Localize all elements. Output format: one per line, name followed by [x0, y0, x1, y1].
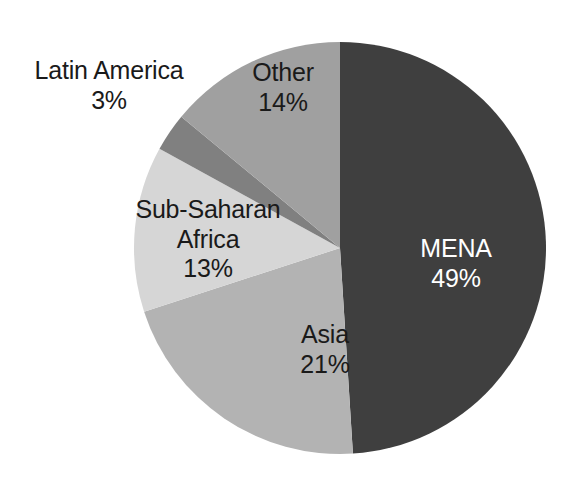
slice-label-asia: Asia 21%	[271, 320, 379, 379]
slice-label-sub-saharan-africa-value: 13%	[120, 254, 296, 284]
slice-label-asia-name: Asia	[271, 320, 379, 350]
slice-label-sub-saharan-africa-name: Sub-Saharan	[120, 195, 296, 225]
slice-label-other: Other 14%	[219, 58, 347, 117]
slice-label-latin-america-name: Latin America	[10, 56, 208, 86]
pie-chart: Latin America 3% Other 14% MENA 49% Sub-…	[0, 0, 577, 477]
slice-label-sub-saharan-africa-name-line2: Africa	[120, 225, 296, 255]
slice-label-latin-america: Latin America 3%	[10, 56, 208, 115]
slice-label-latin-america-value: 3%	[10, 86, 208, 116]
slice-label-other-value: 14%	[219, 88, 347, 118]
slice-label-other-name: Other	[219, 58, 347, 88]
slice-label-mena-name: MENA	[389, 234, 523, 264]
slice-label-asia-value: 21%	[271, 350, 379, 380]
slice-label-mena-value: 49%	[389, 264, 523, 294]
slice-label-sub-saharan-africa: Sub-Saharan Africa 13%	[120, 195, 296, 284]
slice-label-mena: MENA 49%	[389, 234, 523, 293]
